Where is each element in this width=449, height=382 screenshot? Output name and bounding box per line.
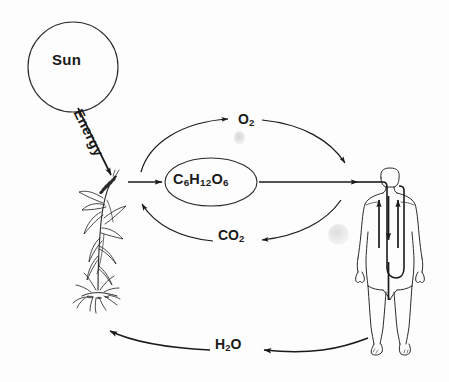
oxygen-sub: 2 xyxy=(249,117,254,128)
oxygen-base: O xyxy=(238,111,249,127)
glucose-h-sub: 12 xyxy=(200,177,211,188)
water-arc-right xyxy=(264,338,368,352)
carbon-dioxide-label: CO2 xyxy=(218,228,244,242)
carbon-dioxide-arc-left xyxy=(142,204,213,241)
glucose-formula-label: C6H12O6 xyxy=(173,172,229,187)
carbon-dioxide-sub: 2 xyxy=(239,233,244,244)
oxygen-arc-right xyxy=(262,120,345,163)
plant-illustration xyxy=(73,170,126,313)
glucose-h: H xyxy=(189,171,200,187)
oxygen-arc-left xyxy=(141,119,228,172)
water-sub: 2 xyxy=(225,342,230,353)
human-illustration xyxy=(356,168,425,355)
water-label: H2O xyxy=(215,337,241,351)
carbon-dioxide-base: CO xyxy=(218,227,239,243)
photosynthesis-respiration-diagram: Sun Energy C6H12O6 O2 CO2 H2O xyxy=(0,0,449,382)
glucose-c-sub: 6 xyxy=(184,177,190,188)
sun-label: Sun xyxy=(52,52,81,67)
oxygen-label: O2 xyxy=(238,112,254,126)
glucose-c: C xyxy=(173,171,184,187)
water-tail: O xyxy=(230,336,241,352)
water-arc-left xyxy=(110,331,210,350)
circulation-loop xyxy=(358,182,404,300)
glucose-o: O xyxy=(211,171,222,187)
water-base: H xyxy=(215,336,225,352)
carbon-dioxide-arc-right xyxy=(262,200,341,240)
glucose-o-sub: 6 xyxy=(223,177,229,188)
